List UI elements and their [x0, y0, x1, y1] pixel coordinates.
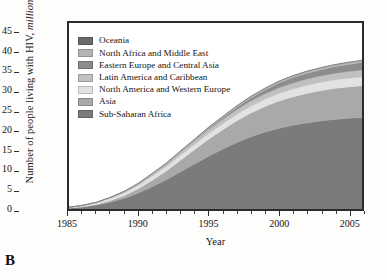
- x-tick-minor: [251, 211, 252, 214]
- x-tick-minor: [336, 211, 337, 214]
- legend-swatch-north-america-and-western-europe: [78, 86, 93, 94]
- y-tick-label: 5: [7, 184, 12, 194]
- x-tick-minor: [194, 211, 195, 214]
- x-tick-major: [279, 211, 280, 216]
- legend-item-asia: Asia: [78, 96, 230, 108]
- x-tick-major: [138, 211, 139, 216]
- x-tick-label: 2000: [259, 218, 299, 229]
- legend-swatch-latin-america-and-caribbean: [78, 74, 93, 82]
- y-tick-label: 25: [2, 105, 12, 115]
- x-tick-minor: [322, 211, 323, 214]
- legend-label-latin-america-and-caribbean: Latin America and Caribbean: [99, 73, 207, 82]
- y-tick-mark: [14, 151, 19, 152]
- x-tick-minor: [364, 211, 365, 214]
- x-tick-minor: [152, 211, 153, 214]
- y-tick-mark: [14, 32, 19, 33]
- y-axis-title: Number of people living with HIV, millio…: [24, 0, 35, 197]
- legend-label-eastern-europe-and-central-asia: Eastern Europe and Central Asia: [99, 61, 219, 70]
- y-tick-mark: [14, 112, 19, 113]
- legend-label-oceania: Oceania: [99, 36, 129, 45]
- legend-item-north-africa-and-middle-east: North Africa and Middle East: [78, 47, 230, 59]
- y-tick-mark: [14, 191, 19, 192]
- chart-legend: OceaniaNorth Africa and Middle EastEaste…: [78, 35, 230, 120]
- legend-label-north-africa-and-middle-east: North Africa and Middle East: [99, 49, 208, 58]
- x-tick-minor: [293, 211, 294, 214]
- x-tick-minor: [124, 211, 125, 214]
- y-tick-mark: [14, 131, 19, 132]
- legend-swatch-oceania: [78, 37, 93, 45]
- y-tick-label: 35: [2, 65, 12, 75]
- legend-swatch-sub-saharan-africa: [78, 110, 93, 118]
- legend-swatch-north-africa-and-middle-east: [78, 49, 93, 57]
- figure-panel-b: Number of people living with HIV, millio…: [0, 0, 387, 280]
- x-tick-label: 1995: [188, 218, 228, 229]
- y-axis-title-italic: million: [24, 0, 35, 30]
- x-axis-title: Year: [67, 236, 364, 247]
- legend-item-oceania: Oceania: [78, 35, 230, 47]
- y-tick-mark: [14, 52, 19, 53]
- x-tick-label: 1985: [47, 218, 87, 229]
- y-tick-label: 40: [2, 46, 12, 56]
- legend-label-north-america-and-western-europe: North America and Western Europe: [99, 85, 230, 94]
- x-tick-major: [350, 211, 351, 216]
- y-axis-title-plain: Number of people living with HIV,: [24, 33, 35, 184]
- y-tick-label: 15: [2, 145, 12, 155]
- x-tick-minor: [109, 211, 110, 214]
- x-tick-label: 1990: [118, 218, 158, 229]
- y-tick-label: 30: [2, 85, 12, 95]
- legend-item-sub-saharan-africa: Sub-Saharan Africa: [78, 108, 230, 120]
- legend-item-north-america-and-western-europe: North America and Western Europe: [78, 84, 230, 96]
- legend-label-asia: Asia: [99, 97, 116, 106]
- x-tick-minor: [180, 211, 181, 214]
- x-tick-minor: [95, 211, 96, 214]
- y-tick-label: 10: [2, 164, 12, 174]
- x-tick-label: 2005: [330, 218, 370, 229]
- x-tick-minor: [307, 211, 308, 214]
- x-tick-minor: [223, 211, 224, 214]
- x-tick-minor: [166, 211, 167, 214]
- y-tick-label: 0: [7, 204, 12, 214]
- legend-item-eastern-europe-and-central-asia: Eastern Europe and Central Asia: [78, 59, 230, 71]
- x-tick-major: [67, 211, 68, 216]
- y-tick-mark: [14, 92, 19, 93]
- y-tick-label: 45: [2, 26, 12, 36]
- y-tick-label: 20: [2, 125, 12, 135]
- legend-label-sub-saharan-africa: Sub-Saharan Africa: [99, 110, 171, 119]
- y-tick-mark: [14, 171, 19, 172]
- x-tick-minor: [81, 211, 82, 214]
- x-tick-major: [208, 211, 209, 216]
- x-tick-minor: [237, 211, 238, 214]
- legend-item-latin-america-and-caribbean: Latin America and Caribbean: [78, 72, 230, 84]
- y-tick-mark: [14, 72, 19, 73]
- panel-letter: B: [5, 252, 15, 269]
- x-tick-minor: [265, 211, 266, 214]
- legend-swatch-asia: [78, 98, 93, 106]
- legend-swatch-eastern-europe-and-central-asia: [78, 61, 93, 69]
- y-tick-mark: [14, 211, 19, 212]
